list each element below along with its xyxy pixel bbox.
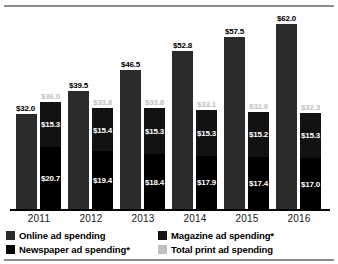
segment-newspaper-2015: $17.4: [248, 157, 269, 209]
segment-magazine-2015: $15.2: [248, 112, 269, 157]
bar-print-2013: $18.4$15.3$33.8: [144, 108, 165, 209]
legend-label-newspaper: Newspaper ad spending*: [19, 244, 130, 255]
value-label-newspaper-2016: $17.0: [301, 180, 320, 189]
legend-label-online: Online ad spending: [19, 230, 105, 241]
legend-row-2: Newspaper ad spending* Total print ad sp…: [6, 242, 332, 256]
value-label-newspaper-2012: $19.4: [93, 176, 112, 185]
x-tick-label-2013: 2013: [120, 213, 166, 224]
legend-row-1: Online ad spending Magazine ad spending*: [6, 228, 332, 242]
bar-online-2015: $57.5: [224, 37, 245, 209]
segment-magazine-2011: $15.3: [40, 102, 61, 148]
bar-online-2016: $62.0: [276, 24, 297, 209]
value-label-online-2014: $52.8: [173, 41, 192, 50]
value-label-online-2013: $46.5: [121, 60, 140, 69]
segment-magazine-2014: $15.3: [196, 110, 217, 155]
bar-group-2012: $39.5$19.4$15.4$33.82012: [68, 12, 114, 209]
bar-online-2013: $46.5: [120, 70, 141, 209]
value-label-total-print-2015: $32.6: [249, 102, 268, 111]
legend-item-newspaper[interactable]: Newspaper ad spending*: [6, 244, 158, 255]
bar-group-2013: $46.5$18.4$15.3$33.82013: [120, 12, 166, 209]
value-label-newspaper-2013: $18.4: [145, 178, 164, 187]
value-label-newspaper-2014: $17.9: [197, 178, 216, 187]
legend-swatch-magazine-icon: [158, 231, 167, 240]
legend-swatch-online-icon: [6, 231, 15, 240]
value-label-magazine-2016: $15.3: [301, 131, 320, 140]
segment-magazine-2016: $15.3: [300, 113, 321, 159]
value-label-total-print-2011: $36.0: [41, 92, 60, 101]
bar-group-2015: $57.5$17.4$15.2$32.62015: [224, 12, 270, 209]
x-axis-line: [10, 209, 330, 211]
value-label-newspaper-2015: $17.4: [249, 179, 268, 188]
segment-newspaper-2014: $17.9: [196, 156, 217, 209]
chart-legend: Online ad spending Magazine ad spending*…: [6, 228, 332, 256]
value-label-online-2011: $32.0: [16, 104, 35, 113]
top-divider: [4, 5, 334, 7]
segment-magazine-2012: $15.4: [92, 108, 113, 151]
x-tick-label-2012: 2012: [68, 213, 114, 224]
value-label-magazine-2012: $15.4: [93, 126, 112, 135]
value-label-total-print-2016: $32.3: [301, 103, 320, 112]
legend-item-online[interactable]: Online ad spending: [6, 230, 158, 241]
value-label-online-2012: $39.5: [69, 81, 88, 90]
legend-label-total-print: Total print ad spending: [171, 244, 273, 255]
value-label-total-print-2014: $33.1: [197, 100, 216, 109]
bar-group-2011: $32.0$20.7$15.3$36.02011: [16, 12, 62, 209]
segment-magazine-2013: $15.3: [144, 108, 165, 154]
value-label-online-2016: $62.0: [277, 14, 296, 23]
bar-online-2011: $32.0: [16, 114, 37, 210]
x-tick-label-2011: 2011: [16, 213, 62, 224]
value-label-magazine-2011: $15.3: [41, 120, 60, 129]
bar-online-2012: $39.5: [68, 91, 89, 209]
bar-online-2014: $52.8: [172, 51, 193, 209]
bar-print-2011: $20.7$15.3$36.0: [40, 102, 61, 209]
x-tick-label-2015: 2015: [224, 213, 270, 224]
legend-swatch-total-print-icon: [158, 245, 167, 254]
value-label-magazine-2014: $15.3: [197, 129, 216, 138]
value-label-magazine-2015: $15.2: [249, 130, 268, 139]
legend-swatch-newspaper-icon: [6, 245, 15, 254]
legend-label-magazine: Magazine ad spending*: [171, 230, 274, 241]
bar-print-2016: $17.0$15.3$32.3: [300, 113, 321, 209]
legend-item-total-print[interactable]: Total print ad spending: [158, 244, 328, 255]
segment-newspaper-2011: $20.7: [40, 147, 61, 209]
value-label-total-print-2013: $33.8: [145, 98, 164, 107]
bar-group-2016: $62.0$17.0$15.3$32.32016: [276, 12, 322, 209]
x-tick-label-2014: 2014: [172, 213, 218, 224]
bar-print-2015: $17.4$15.2$32.6: [248, 112, 269, 209]
bar-print-2014: $17.9$15.3$33.1: [196, 110, 217, 209]
value-label-magazine-2013: $15.3: [145, 127, 164, 136]
bar-print-2012: $19.4$15.4$33.8: [92, 108, 113, 209]
value-label-online-2015: $57.5: [225, 27, 244, 36]
x-tick-label-2016: 2016: [276, 213, 322, 224]
chart-figure: $32.0$20.7$15.3$36.02011$39.5$19.4$15.4$…: [0, 0, 338, 264]
value-label-newspaper-2011: $20.7: [41, 174, 60, 183]
value-label-total-print-2012: $33.8: [93, 98, 112, 107]
plot-area: $32.0$20.7$15.3$36.02011$39.5$19.4$15.4$…: [10, 12, 330, 211]
segment-newspaper-2013: $18.4: [144, 154, 165, 209]
bottom-divider: [4, 259, 334, 261]
bar-group-2014: $52.8$17.9$15.3$33.12014: [172, 12, 218, 209]
legend-item-magazine[interactable]: Magazine ad spending*: [158, 230, 328, 241]
segment-newspaper-2012: $19.4: [92, 151, 113, 209]
segment-newspaper-2016: $17.0: [300, 158, 321, 209]
